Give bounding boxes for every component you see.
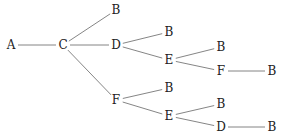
node-d-2: D [216,120,226,134]
node-b-6: B [217,97,226,111]
node-b-7: B [268,120,277,134]
node-c: C [58,38,67,52]
tree-edge [176,117,214,125]
tree-edge [123,102,163,114]
node-b-3: B [217,40,226,54]
node-a: A [6,38,16,52]
node-b-2: B [165,25,174,39]
tree-edge [123,90,162,99]
tree-edge [176,49,214,59]
tree-diagram: A C B D B E B F B F B E B D B [0,0,282,138]
node-b-5: B [165,81,174,95]
tree-edge [69,14,110,41]
tree-edge [176,61,214,69]
tree-nodes: A C B D B E B F B F B E B D B [6,3,277,134]
node-d-1: D [111,38,121,52]
node-e-1: E [165,53,174,67]
tree-edge [123,34,162,44]
node-b-1: B [112,3,121,17]
tree-edge [68,50,111,95]
tree-edge [123,47,163,58]
node-f-1: F [217,64,225,78]
node-e-2: E [165,109,174,123]
tree-edges [18,14,265,127]
node-f-2: F [112,93,120,107]
tree-edge [176,106,214,115]
node-b-4: B [268,64,277,78]
